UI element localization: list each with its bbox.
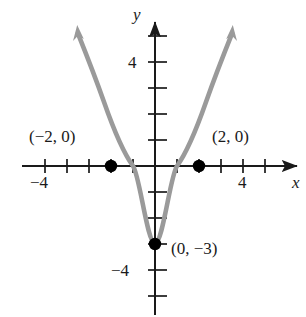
- x-axis-label: x: [292, 174, 300, 191]
- y-tick-label-neg4: −4: [111, 262, 129, 279]
- point-vertex: [149, 238, 161, 250]
- x-tick-label-4: 4: [238, 174, 247, 191]
- point-right-root: [193, 160, 205, 172]
- parabola-figure: y x 4 −4 −4 4 (−2, 0) (2, 0) (0, −3): [0, 0, 306, 317]
- annotation-left-root: (−2, 0): [29, 128, 75, 145]
- graph-canvas: [0, 0, 306, 317]
- y-tick-label-4: 4: [128, 54, 137, 71]
- annotation-vertex: (0, −3): [171, 240, 217, 257]
- point-left-root: [105, 160, 117, 172]
- y-axis-label: y: [133, 6, 141, 23]
- x-tick-label-neg4: −4: [30, 174, 48, 191]
- annotation-right-root: (2, 0): [212, 128, 249, 145]
